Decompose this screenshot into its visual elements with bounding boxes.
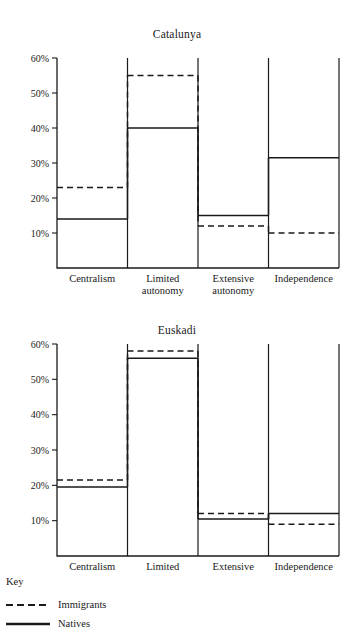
x-axis-category-label: Centralism [69, 273, 115, 284]
chart-euskadi: Euskadi 10%20%30%40%50%60%CentralismLimi… [0, 300, 354, 575]
x-axis-category-label: Independence [275, 273, 334, 284]
x-axis-category-label: Limited [146, 561, 180, 572]
y-axis-tick-label: 20% [31, 480, 49, 491]
y-axis-tick-label: 30% [31, 445, 49, 456]
x-axis-category-label: autonomy [212, 285, 255, 296]
y-axis-tick-label: 30% [31, 158, 49, 169]
y-axis-tick-label: 10% [31, 515, 49, 526]
legend-label-natives: Natives [58, 618, 90, 629]
legend-label-immigrants: Immigrants [58, 599, 106, 610]
chart-catalunya: Catalunya 10%20%30%40%50%60%CentralismLi… [0, 0, 354, 305]
legend: Key Immigrants Natives [6, 576, 206, 633]
x-axis-category-label: autonomy [142, 573, 185, 575]
x-axis-category-label: Centralism [69, 561, 115, 572]
legend-item-natives: Natives [6, 614, 206, 633]
figure-page: Catalunya 10%20%30%40%50%60%CentralismLi… [0, 0, 354, 634]
x-axis-category-label: autonomy [212, 573, 255, 575]
plot-area-euskadi: 10%20%30%40%50%60%CentralismLimitedauton… [0, 300, 354, 575]
y-axis-tick-label: 10% [31, 228, 49, 239]
x-axis-category-label: Extensive [213, 561, 255, 572]
dashed-line-icon [6, 600, 50, 610]
y-axis-tick-label: 50% [31, 374, 49, 385]
y-axis-tick-label: 40% [31, 409, 49, 420]
legend-title: Key [6, 576, 206, 587]
x-axis-category-label: Limited [146, 273, 180, 284]
plot-area-catalunya: 10%20%30%40%50%60%CentralismLimitedauton… [0, 0, 354, 305]
x-axis-category-label: autonomy [142, 285, 185, 296]
legend-item-immigrants: Immigrants [6, 595, 206, 614]
y-axis-tick-label: 40% [31, 123, 49, 134]
y-axis-tick-label: 50% [31, 88, 49, 99]
x-axis-category-label: Extensive [213, 273, 255, 284]
y-axis-tick-label: 20% [31, 193, 49, 204]
y-axis-tick-label: 60% [31, 53, 49, 64]
solid-line-icon [6, 619, 50, 629]
y-axis-tick-label: 60% [31, 339, 49, 350]
x-axis-category-label: Independence [275, 561, 334, 572]
